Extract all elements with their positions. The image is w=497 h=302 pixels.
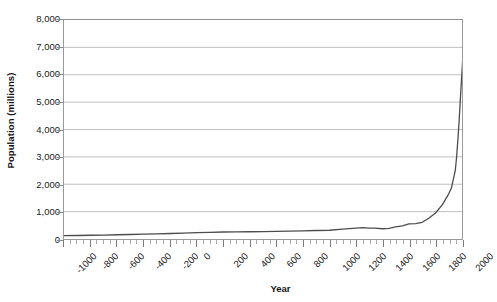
y-tick-label: 0 — [18, 235, 60, 245]
x-tick-label-text: -400 — [153, 251, 173, 271]
x-tick-minor — [83, 240, 84, 244]
x-tick-minor — [76, 240, 77, 244]
x-tick-label: 400 — [259, 249, 277, 267]
x-tick-minor — [390, 240, 391, 244]
x-tick-major — [330, 240, 331, 247]
y-tick-label: 4,000 — [18, 125, 60, 135]
x-tick-label-text: 1800 — [447, 251, 469, 273]
x-tick-minor — [430, 240, 431, 244]
x-tick-label: -1000 — [75, 249, 99, 273]
x-tick-major — [356, 240, 357, 247]
x-tick-label-text: 2000 — [473, 251, 495, 273]
x-tick-label-text: 400 — [259, 251, 277, 269]
x-tick-major — [116, 240, 117, 247]
x-tick-minor — [376, 240, 377, 244]
x-tick-label-text: 1400 — [393, 251, 415, 273]
x-tick-minor — [183, 240, 184, 244]
x-tick-minor — [210, 240, 211, 244]
x-tick-major — [303, 240, 304, 247]
x-tick-label-text: 600 — [285, 251, 303, 269]
x-tick-label: 1400 — [394, 249, 416, 271]
x-tick-minor — [230, 240, 231, 244]
x-tick-minor — [310, 240, 311, 244]
x-tick-label: -400 — [154, 249, 174, 269]
x-tick-label-text: -1000 — [74, 251, 98, 275]
x-tick-minor — [350, 240, 351, 244]
x-tick-label-text: -800 — [100, 251, 120, 271]
x-tick-label-text: 0 — [202, 251, 212, 261]
y-tick-label: 3,000 — [18, 152, 60, 162]
y-tick-label: 8,000 — [18, 14, 60, 24]
x-tick-major — [143, 240, 144, 247]
y-tick-label: 6,000 — [18, 70, 60, 80]
x-tick-minor — [323, 240, 324, 244]
x-tick-label: 1200 — [368, 249, 390, 271]
y-axis-tick-labels: 01,0002,0003,0004,0005,0006,0007,0008,00… — [18, 0, 60, 302]
y-tick-label: 1,000 — [18, 208, 60, 218]
x-tick-minor — [370, 240, 371, 244]
y-axis-title: Population (millions) — [0, 0, 20, 240]
x-tick-minor — [110, 240, 111, 244]
x-tick-minor — [283, 240, 284, 244]
x-tick-major — [410, 240, 411, 247]
x-tick-major — [223, 240, 224, 247]
y-tick-label: 7,000 — [18, 42, 60, 52]
x-tick-label: 1000 — [341, 249, 363, 271]
x-tick-minor — [216, 240, 217, 244]
x-tick-minor — [243, 240, 244, 244]
x-tick-minor — [296, 240, 297, 244]
x-tick-minor — [256, 240, 257, 244]
x-tick-major — [463, 240, 464, 247]
x-tick-minor — [103, 240, 104, 244]
plot-area — [63, 19, 463, 240]
x-tick-label: -200 — [180, 249, 200, 269]
x-tick-minor — [270, 240, 271, 244]
x-tick-major — [196, 240, 197, 247]
x-tick-label-text: 800 — [312, 251, 330, 269]
x-tick-minor — [263, 240, 264, 244]
x-tick-major — [170, 240, 171, 247]
x-tick-major — [383, 240, 384, 247]
x-tick-minor — [203, 240, 204, 244]
x-tick-minor — [343, 240, 344, 244]
x-tick-label-text: 1600 — [420, 251, 442, 273]
x-tick-label: -800 — [100, 249, 120, 269]
x-tick-label-text: 200 — [232, 251, 250, 269]
x-tick-label: 200 — [233, 249, 251, 267]
x-axis-title-label: Year — [270, 283, 290, 294]
x-tick-minor — [96, 240, 97, 244]
x-tick-label: 1800 — [448, 249, 470, 271]
x-tick-minor — [130, 240, 131, 244]
x-tick-label-text: 1000 — [340, 251, 362, 273]
x-axis-tick-marks — [63, 240, 463, 249]
x-tick-major — [63, 240, 64, 247]
x-tick-minor — [316, 240, 317, 244]
x-tick-minor — [163, 240, 164, 244]
x-tick-minor — [450, 240, 451, 244]
y-axis-title-label: Population (millions) — [5, 72, 16, 168]
x-tick-label-text: -600 — [126, 251, 146, 271]
y-tick-label: 5,000 — [18, 97, 60, 107]
x-tick-major — [276, 240, 277, 247]
x-tick-major — [436, 240, 437, 247]
x-tick-minor — [396, 240, 397, 244]
x-tick-label-text: 1200 — [367, 251, 389, 273]
x-tick-label: 1600 — [421, 249, 443, 271]
x-tick-label: 600 — [286, 249, 304, 267]
x-tick-minor — [70, 240, 71, 244]
x-tick-minor — [236, 240, 237, 244]
plot-svg — [64, 20, 462, 239]
x-tick-minor — [290, 240, 291, 244]
x-tick-minor — [336, 240, 337, 244]
x-tick-minor — [156, 240, 157, 244]
x-tick-major — [90, 240, 91, 247]
x-tick-label: -600 — [127, 249, 147, 269]
x-tick-label-text: -200 — [180, 251, 200, 271]
x-axis-tick-labels: -1000-800-600-400-2000200400600800100012… — [63, 249, 463, 283]
y-tick-label: 2,000 — [18, 180, 60, 190]
x-tick-label: 800 — [313, 249, 331, 267]
x-tick-minor — [190, 240, 191, 244]
x-axis-title: Year — [0, 283, 481, 294]
x-tick-minor — [456, 240, 457, 244]
